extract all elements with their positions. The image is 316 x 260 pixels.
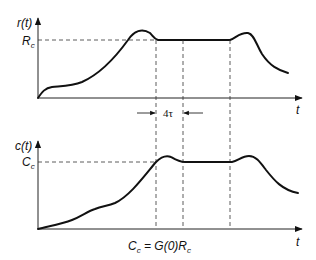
diagram-canvas: r(t) t Rc 4τ c(t) t Cc Cc = G(0)Rc — [0, 0, 316, 260]
interval-label: 4τ — [163, 107, 174, 119]
steady-state-equation: Cc = G(0)Rc — [128, 239, 191, 255]
top-plot: r(t) t Rc — [17, 16, 302, 117]
top-y-axis-label: r(t) — [17, 16, 32, 30]
vertical-guides — [156, 40, 230, 229]
bottom-x-axis-label: t — [296, 235, 300, 249]
interval-marker: 4τ — [137, 107, 203, 119]
bottom-y-axis-label: c(t) — [15, 139, 32, 153]
bottom-plot: c(t) t Cc — [15, 139, 302, 249]
top-input-curve — [38, 31, 288, 98]
bottom-level-label: Cc — [22, 155, 35, 171]
top-level-label: Rc — [22, 34, 35, 50]
top-x-axis-label: t — [296, 103, 300, 117]
bottom-output-curve — [38, 156, 298, 229]
